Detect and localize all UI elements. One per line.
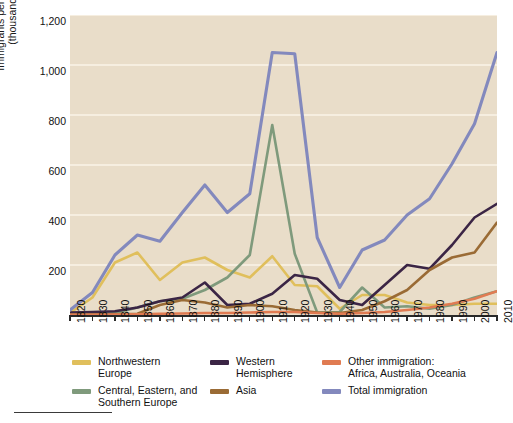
legend-item-total-immigration[interactable]: Total immigration (322, 385, 512, 397)
immigration-chart-figure: Immigrants per decade (thousands) 1,200 … (0, 0, 513, 423)
y-tick-label-200: 200 (24, 265, 66, 277)
y-axis-title: Immigrants per decade (thousands) (0, 0, 18, 92)
x-tick-1940 (339, 315, 340, 321)
x-tick-2000 (474, 315, 475, 321)
x-tick-label-1960: 1960 (389, 300, 401, 323)
line-swatch-other-immigration (322, 360, 341, 365)
x-tick-label-1870: 1870 (187, 300, 199, 323)
x-tick-1910 (272, 315, 273, 321)
y-tick-label-1200: 1,200 (24, 15, 66, 27)
x-tick-label-2010: 2010 (502, 300, 513, 323)
line-swatch-northwestern-europe (72, 360, 91, 365)
x-tick-label-1930: 1930 (322, 300, 334, 323)
y-axis-tick-labels: 1,200 1,000 800 600 400 200 (18, 0, 66, 330)
x-tick-label-2000: 2000 (479, 300, 491, 323)
x-tick-1950 (362, 315, 363, 321)
x-tick-2010 (496, 315, 497, 321)
x-tick-label-1900: 1900 (254, 300, 266, 323)
plot-area (70, 15, 497, 315)
x-tick-label-1970: 1970 (412, 300, 424, 323)
legend-item-central-eastern-and[interactable]: Central, Eastern, and Southern Europe (72, 385, 212, 408)
legend-label: Asia (236, 385, 256, 397)
bottom-divider-rule (14, 412, 112, 413)
x-tick-label-1890: 1890 (232, 300, 244, 323)
line-swatch-total-immigration (322, 389, 341, 394)
legend-label: Western Hemisphere (236, 356, 293, 379)
x-tick-label-1860: 1860 (164, 300, 176, 323)
x-tick-label-1950: 1950 (367, 300, 379, 323)
y-tick-label-1000: 1,000 (24, 65, 66, 77)
legend-label: Other immigration: Africa, Australia, Oc… (348, 356, 466, 379)
x-tick-1870 (182, 315, 183, 321)
x-tick-1840 (114, 315, 115, 321)
x-tick-1890 (227, 315, 228, 321)
line-swatch-central-eastern-southern-europe (72, 389, 91, 394)
chart-legend: Northwestern EuropeCentral, Eastern, and… (72, 356, 502, 404)
legend-item-asia[interactable]: Asia (210, 385, 320, 397)
legend-column-2: Western HemisphereAsia (210, 356, 320, 403)
series-line-western-hemisphere (70, 204, 497, 313)
y-tick-label-800: 800 (24, 115, 66, 127)
x-tick-1930 (317, 315, 318, 321)
x-tick-label-1830: 1830 (97, 300, 109, 323)
x-tick-1860 (159, 315, 160, 321)
chart-plot-svg (70, 15, 497, 315)
x-tick-1980 (429, 315, 430, 321)
legend-label: Northwestern Europe (98, 356, 160, 379)
line-swatch-western-hemisphere (210, 360, 229, 365)
x-tick-1970 (406, 315, 407, 321)
x-tick-label-1910: 1910 (277, 300, 289, 323)
series-line-central-eastern-and-southern-europe (70, 125, 497, 315)
x-tick-1850 (137, 315, 138, 321)
x-tick-1880 (204, 315, 205, 321)
x-tick-1830 (92, 315, 93, 321)
x-tick-1990 (451, 315, 452, 321)
legend-column-1: Northwestern EuropeCentral, Eastern, and… (72, 356, 212, 414)
y-tick-label-400: 400 (24, 215, 66, 227)
y-tick-label-600: 600 (24, 165, 66, 177)
x-tick-label-1940: 1940 (344, 300, 356, 323)
x-tick-label-1820: 1820 (75, 300, 87, 323)
legend-item-other-immigration[interactable]: Other immigration: Africa, Australia, Oc… (322, 356, 512, 379)
legend-item-northwestern[interactable]: Northwestern Europe (72, 356, 212, 379)
x-tick-1820 (69, 315, 70, 321)
x-tick-label-1840: 1840 (119, 300, 131, 323)
legend-label: Central, Eastern, and Southern Europe (98, 385, 197, 408)
series-lines (70, 53, 497, 315)
x-tick-label-1850: 1850 (142, 300, 154, 323)
x-tick-label-1990: 1990 (457, 300, 469, 323)
x-tick-1960 (384, 315, 385, 321)
x-tick-label-1980: 1980 (434, 300, 446, 323)
x-tick-label-1920: 1920 (299, 300, 311, 323)
x-tick-label-1880: 1880 (209, 300, 221, 323)
legend-item-western[interactable]: Western Hemisphere (210, 356, 320, 379)
legend-column-3: Other immigration: Africa, Australia, Oc… (322, 356, 512, 403)
legend-label: Total immigration (348, 385, 427, 397)
x-tick-1900 (249, 315, 250, 321)
x-tick-1920 (294, 315, 295, 321)
line-swatch-asia (210, 389, 229, 394)
